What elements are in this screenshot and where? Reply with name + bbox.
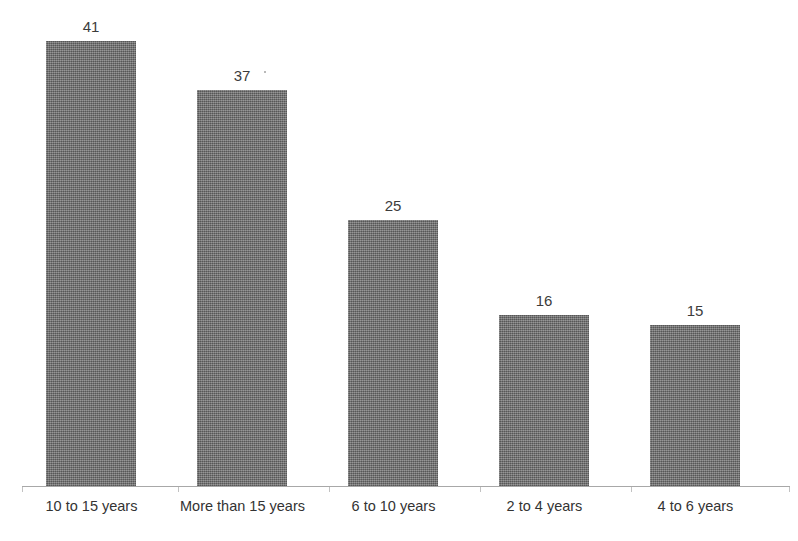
bar-value-label: 37 [197, 68, 287, 84]
x-axis-tick [789, 487, 790, 492]
x-axis-label: 10 to 15 years [16, 496, 167, 516]
bar-value-label: 41 [46, 19, 136, 35]
x-axis-tick [329, 487, 330, 492]
bar-group: 16 [469, 0, 620, 487]
x-axis-label: 4 to 6 years [620, 496, 771, 516]
bar-value-label: 25 [348, 198, 438, 214]
x-axis-tick [480, 487, 481, 492]
x-axis-category-labels: 10 to 15 years More than 15 years 6 to 1… [0, 496, 798, 522]
bar-group: 15 [620, 0, 771, 487]
x-axis-label: 6 to 10 years [318, 496, 469, 516]
bar-rect[interactable] [46, 41, 136, 487]
x-axis-label: 2 to 4 years [469, 496, 620, 516]
x-axis-line [22, 486, 790, 487]
bar-rect[interactable] [197, 90, 287, 487]
x-axis-tick [178, 487, 179, 492]
bar-rect[interactable] [348, 220, 438, 487]
bar-value-label: 16 [499, 293, 589, 309]
scan-speckle [264, 71, 266, 73]
bar-rect[interactable] [650, 325, 740, 487]
bar-chart: 41 37 25 16 15 10 to 15 y [0, 0, 798, 541]
bar-group: 25 [318, 0, 469, 487]
bar-group: 37 [167, 0, 318, 487]
bar-group: 41 [16, 0, 167, 487]
x-axis-label: More than 15 years [167, 496, 318, 516]
x-axis-tick [631, 487, 632, 492]
x-axis-tick [22, 487, 23, 492]
plot-area: 41 37 25 16 15 [0, 0, 798, 487]
bar-value-label: 15 [650, 303, 740, 319]
bar-rect[interactable] [499, 315, 589, 487]
